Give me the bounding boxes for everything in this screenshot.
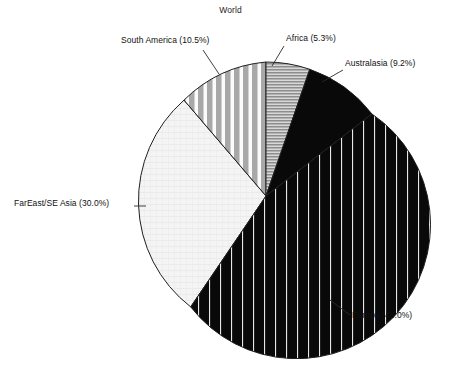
pie-chart-page: World (0, 0, 461, 373)
pie-label-africa: Africa (5.3%) (286, 33, 336, 43)
leader-line-south-america (203, 50, 219, 74)
pie-label-south-america: South America (10.5%) (121, 35, 209, 45)
pie-label-australasia: Australasia (9.2%) (345, 58, 415, 68)
pie-label-europe: Europe (45.0%) (352, 310, 412, 320)
pie-label-fareast-se-asia: FarEast/SE Asia (30.0%) (14, 198, 109, 208)
